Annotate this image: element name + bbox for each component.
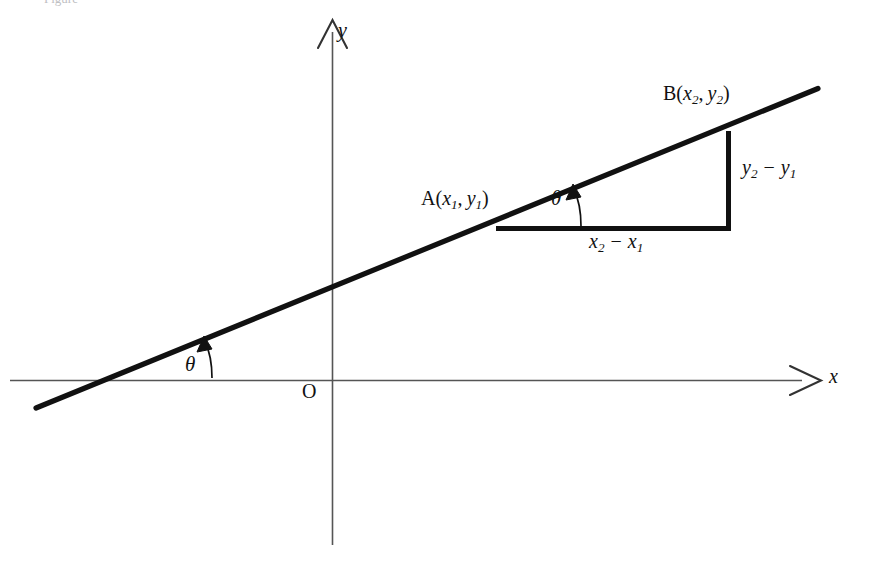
- run-var-1: x: [589, 230, 598, 252]
- y-axis-label: y: [338, 20, 347, 40]
- theta-label-origin: θ: [185, 354, 195, 375]
- point-a-y-sub: 1: [476, 197, 483, 212]
- rise-sub-2: 1: [790, 166, 797, 181]
- rise-var-2: y: [781, 156, 790, 178]
- figure-page: { "figure": { "caption_fragment": "Figur…: [0, 0, 869, 567]
- point-a-letter: A: [421, 187, 435, 209]
- rise-label: y2−y1: [742, 157, 796, 180]
- geometry-figure-canvas: [0, 0, 869, 567]
- run-sub-2: 1: [637, 240, 644, 255]
- point-b-x-var: x: [683, 82, 692, 104]
- run-label: x2−x1: [589, 231, 643, 254]
- origin-label: O: [302, 381, 316, 401]
- caption-fragment: Figure: [44, 0, 78, 7]
- point-a-x-var: x: [442, 187, 451, 209]
- rise-var-1: y: [742, 156, 751, 178]
- point-a-y-var: y: [467, 187, 476, 209]
- point-b-y-sub: 2: [716, 92, 723, 107]
- main-line: [36, 89, 818, 409]
- point-b-letter: B: [663, 82, 676, 104]
- theta-label-point-a: θ: [551, 188, 561, 209]
- rise-minus-sign: −: [757, 156, 780, 178]
- point-a-x-sub: 1: [451, 197, 458, 212]
- run-var-2: x: [628, 230, 637, 252]
- point-b-label: B(x2, y2): [663, 83, 730, 106]
- x-axis-label: x: [829, 366, 838, 386]
- point-b-x-sub: 2: [692, 92, 699, 107]
- run-minus-sign: −: [604, 230, 627, 252]
- point-a-label: A(x1, y1): [421, 188, 489, 211]
